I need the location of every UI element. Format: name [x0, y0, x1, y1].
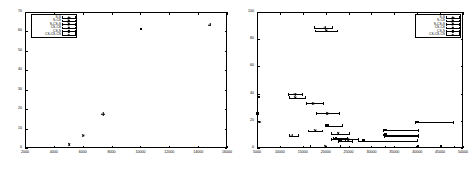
x-axis-tick — [349, 12, 350, 15]
error-bar-cap — [316, 112, 317, 115]
x-axis-tick-label: 2000 — [21, 151, 29, 155]
error-bar-cap — [342, 124, 343, 127]
x-axis-tick — [463, 12, 464, 15]
legend-item-symbol — [446, 33, 459, 36]
x-axis-tick-label: 30000 — [366, 151, 376, 155]
y-axis-tick-label: 0 — [0, 146, 22, 150]
data-point-cs-cs — [140, 28, 143, 31]
y-axis-tick — [25, 148, 28, 149]
data-point-cs-s — [340, 140, 342, 142]
error-bar — [415, 122, 453, 123]
data-point-s-s — [208, 23, 211, 26]
x-axis-tick-label: 40000 — [412, 151, 422, 155]
error-bar-cap — [453, 121, 454, 124]
y-axis-tick — [225, 129, 228, 130]
x-axis-tick-label: 25000 — [344, 151, 354, 155]
error-bar-cap — [302, 93, 303, 96]
y-axis-tick — [257, 66, 260, 67]
data-point-s-cs-s — [325, 112, 328, 115]
data-point-cs-s — [384, 133, 386, 135]
x-axis-tick — [303, 146, 304, 149]
error-bar — [331, 139, 345, 140]
error-bar-cap — [323, 102, 324, 105]
data-point-cs-cs — [384, 129, 387, 132]
error-bar — [383, 135, 417, 136]
legend-item-symbol — [62, 33, 75, 36]
x-axis-tick — [83, 12, 84, 15]
y-axis-tick — [225, 70, 228, 71]
data-point-cs-s — [256, 112, 258, 114]
x-axis-tick — [112, 12, 113, 15]
error-bar-cap — [314, 26, 315, 29]
error-bar — [383, 130, 418, 131]
error-bar-cap — [308, 130, 309, 133]
y-axis-tick — [461, 12, 464, 13]
x-axis-tick — [326, 12, 327, 15]
x-axis-tick-label: 5000 — [253, 151, 261, 155]
x-axis-tick — [169, 146, 170, 149]
x-axis-tick — [394, 12, 395, 15]
x-axis-tick-label: 14000 — [193, 151, 203, 155]
error-bar — [416, 147, 454, 148]
x-axis-tick-label: 6000 — [79, 151, 87, 155]
y-axis-tick — [25, 90, 28, 91]
x-axis-tick — [140, 146, 141, 149]
x-axis-tick-label: 12000 — [164, 151, 174, 155]
error-bar-cap — [349, 132, 350, 135]
legend-marker-ocir-icon — [451, 33, 454, 36]
y-axis-tick-label: 70 — [0, 10, 22, 14]
y-axis-tick-label: 0 — [237, 146, 254, 150]
error-bar-cap — [331, 138, 332, 141]
x-axis-tick — [371, 12, 372, 15]
error-bar-cap — [298, 134, 299, 137]
y-axis-tick — [225, 51, 228, 52]
legend-item: CS-CS-CS — [417, 33, 459, 36]
data-point-s-cs — [313, 129, 316, 132]
x-axis-tick — [83, 146, 84, 149]
error-bar-cap — [385, 146, 386, 149]
error-bar-cap — [322, 130, 323, 133]
error-bar-cap — [310, 145, 311, 148]
chart-legend: S-SS-CSS-CS-SCS-CSCS-SCS-CS-CS — [415, 14, 461, 38]
data-point-cs-s — [258, 96, 260, 98]
y-axis-tick — [461, 121, 464, 122]
y-axis-tick — [225, 31, 228, 32]
y-axis-tick — [225, 148, 228, 149]
x-axis-tick — [169, 12, 170, 15]
x-axis-tick-label: 10000 — [135, 151, 145, 155]
data-point-cs-cs-cs — [334, 138, 337, 141]
data-point-cs-s — [417, 145, 419, 147]
x-axis-tick — [303, 12, 304, 15]
x-axis-tick — [140, 12, 141, 15]
error-bar-cap — [417, 139, 418, 142]
x-axis-tick-label: 45000 — [435, 151, 445, 155]
y-axis-tick — [25, 109, 28, 110]
y-axis-tick-label: 100 — [237, 10, 254, 14]
error-bar-cap — [305, 96, 306, 99]
y-axis-tick-label: 40 — [0, 68, 22, 72]
y-axis-tick — [257, 39, 260, 40]
data-point-cs-cs — [362, 139, 365, 142]
x-axis-tick — [54, 146, 55, 149]
legend-item-label: CS-CS-CS — [429, 33, 446, 36]
y-axis-tick — [257, 94, 260, 95]
y-axis-tick-label: 40 — [237, 92, 254, 96]
error-bar-cap — [418, 134, 419, 137]
data-point-s-cs-s — [67, 143, 70, 146]
y-axis-tick-label: 30 — [0, 88, 22, 92]
y-axis-tick — [461, 39, 464, 40]
error-bar-cap — [315, 30, 316, 33]
data-point-s-cs — [81, 134, 84, 137]
error-bar-cap — [332, 26, 333, 29]
y-axis-tick-label: 80 — [237, 37, 254, 41]
error-bar-cap — [352, 140, 353, 143]
x-axis-tick — [349, 146, 350, 149]
error-bar-cap — [289, 96, 290, 99]
y-axis-tick — [461, 66, 464, 67]
data-point-s-cs — [325, 29, 328, 32]
legend-marker-ocir-icon — [67, 33, 70, 36]
legend-item-label: CS-CS-CS — [45, 33, 62, 36]
error-bar-cap — [418, 129, 419, 132]
x-axis-tick — [198, 146, 199, 149]
y-axis-tick — [25, 12, 28, 13]
